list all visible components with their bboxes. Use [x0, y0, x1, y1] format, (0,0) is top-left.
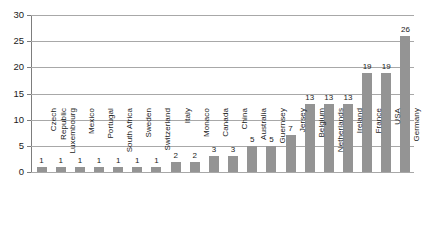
- y-axis-tick: [27, 94, 31, 95]
- y-axis-tick: [27, 41, 31, 42]
- bar-value-label: 13: [305, 94, 314, 102]
- y-axis-tick: [27, 146, 31, 147]
- category-label-slot: CzechRepublic: [32, 176, 51, 244]
- category-label-slot: Switzerland: [147, 176, 166, 244]
- category-label-slot: Guernsey: [262, 176, 281, 244]
- bar-value-label: 1: [135, 157, 139, 165]
- category-label-slot: USA: [377, 176, 396, 244]
- bar-value-label: 13: [324, 94, 333, 102]
- bar-value-label: 19: [382, 63, 391, 71]
- bar-value-label: 2: [173, 152, 177, 160]
- y-axis-tick-label: 20: [0, 62, 24, 72]
- bar-value-label: 2: [193, 152, 197, 160]
- bar-value-label: 1: [78, 157, 82, 165]
- category-label-slot: Monaco: [185, 176, 204, 244]
- bar[interactable]: [37, 167, 47, 172]
- y-axis-tick: [27, 120, 31, 121]
- y-axis-tick-label: 5: [0, 141, 24, 151]
- category-label-slot: Portugal: [89, 176, 108, 244]
- bar-value-label: 13: [344, 94, 353, 102]
- category-label: Monaco: [200, 108, 212, 176]
- y-axis-tick: [27, 172, 31, 173]
- category-label: Mexico: [85, 108, 97, 176]
- y-axis-tick-label: 15: [0, 89, 24, 99]
- y-axis-tick: [27, 67, 31, 68]
- category-label: Switzerland: [161, 108, 173, 176]
- bar-value-label: 1: [154, 157, 158, 165]
- category-label-slot: Belgium: [300, 176, 319, 244]
- category-labels-layer: CzechRepublicLuxembourgMexicoPortugalSou…: [32, 176, 414, 244]
- bar-value-label: 1: [39, 157, 43, 165]
- category-label: Ireland: [353, 108, 365, 176]
- bar-value-label: 7: [288, 125, 292, 133]
- category-label: Italy: [181, 108, 193, 176]
- bar-value-label: 1: [116, 157, 120, 165]
- y-axis-tick: [27, 15, 31, 16]
- bar-value-label: 5: [250, 136, 254, 144]
- category-label: Jersey: [296, 108, 308, 176]
- category-label-slot: Germany: [396, 176, 415, 244]
- category-label-slot: South Africa: [109, 176, 128, 244]
- bar-chart: 051015202530 11111112233557131313191926 …: [0, 0, 425, 244]
- category-label: Portugal: [104, 108, 116, 176]
- category-label-slot: Mexico: [70, 176, 89, 244]
- category-label: USA: [391, 108, 403, 176]
- category-label: Netherlands: [334, 108, 346, 176]
- category-label: Germany: [410, 108, 422, 176]
- category-label-slot: Luxembourg: [51, 176, 70, 244]
- category-label: Sweden: [142, 108, 154, 176]
- category-label: Belgium: [315, 108, 327, 176]
- category-label-slot: Ireland: [338, 176, 357, 244]
- category-label: France: [372, 108, 384, 176]
- bar-value-label: 5: [269, 136, 273, 144]
- bar-value-label: 26: [401, 26, 410, 34]
- y-axis-tick-label: 30: [0, 10, 24, 20]
- category-label-slot: Netherlands: [319, 176, 338, 244]
- category-label-slot: China: [224, 176, 243, 244]
- category-label-slot: Australia: [243, 176, 262, 244]
- category-label-slot: France: [358, 176, 377, 244]
- category-label: Australia: [257, 108, 269, 176]
- category-label: China: [238, 108, 250, 176]
- y-axis-tick-label: 0: [0, 167, 24, 177]
- y-axis-tick-label: 10: [0, 115, 24, 125]
- category-label: South Africa: [123, 108, 135, 176]
- y-axis-tick-label: 25: [0, 36, 24, 46]
- category-label-slot: Sweden: [128, 176, 147, 244]
- category-label-slot: Canada: [204, 176, 223, 244]
- bar-value-label: 3: [212, 146, 216, 154]
- category-label: Luxembourg: [66, 108, 78, 176]
- bar-value-label: 1: [97, 157, 101, 165]
- bar-value-label: 3: [231, 146, 235, 154]
- bar-value-label: 19: [363, 63, 372, 71]
- category-label-slot: Italy: [166, 176, 185, 244]
- category-label: Guernsey: [276, 108, 288, 176]
- category-label-slot: Jersey: [281, 176, 300, 244]
- category-label: Canada: [219, 108, 231, 176]
